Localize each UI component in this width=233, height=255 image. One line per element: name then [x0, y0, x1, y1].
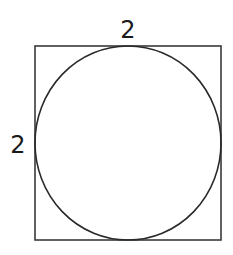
left-side-label: 2 — [10, 131, 25, 159]
inscribed-circle — [35, 46, 221, 240]
inscribed-circle-diagram: 2 2 — [0, 0, 233, 255]
square — [35, 46, 221, 240]
top-side-label: 2 — [120, 16, 135, 44]
